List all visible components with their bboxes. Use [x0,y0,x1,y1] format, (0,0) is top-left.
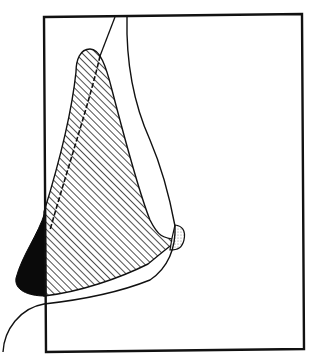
black-tip-area [16,212,45,296]
diagram-canvas: Profile outline of a nose within a recta… [0,0,311,362]
upper-dorsum-line [100,17,115,56]
hatched-area [44,49,178,296]
nose-profile-diagram [0,0,311,362]
stippled-nostril-patch [170,225,185,250]
